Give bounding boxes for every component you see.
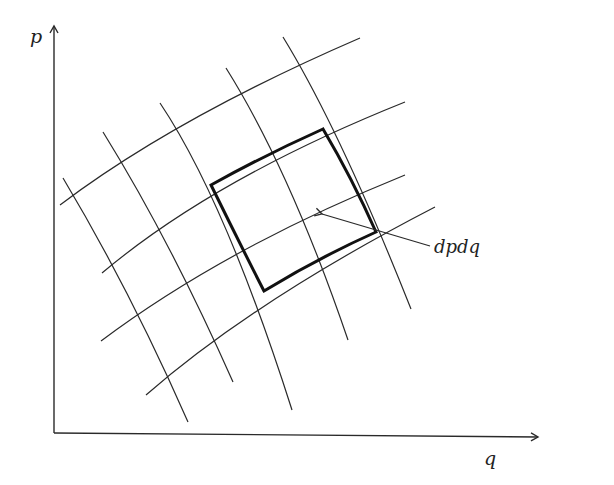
grid-curves-horizontal [60,38,435,395]
dpdq-label: dpdq [434,236,480,257]
annotation-arrow [322,214,430,246]
phase-space-diagram: p q dpdq [0,0,614,485]
axes [54,26,538,437]
diagram-canvas [0,0,614,485]
area-element-outline [211,129,376,291]
p-axis-label: p [30,25,42,47]
grid-curve-h3 [101,175,405,341]
grid-curve-h1 [60,38,360,205]
grid-curve-v3 [160,103,292,410]
q-axis-label: q [484,447,496,469]
q-axis [54,433,538,437]
grid-curve-v1 [63,178,188,422]
area-element-dpdq [211,129,376,291]
grid-curves-vertical [63,37,411,422]
grid-curve-v4 [226,68,348,340]
